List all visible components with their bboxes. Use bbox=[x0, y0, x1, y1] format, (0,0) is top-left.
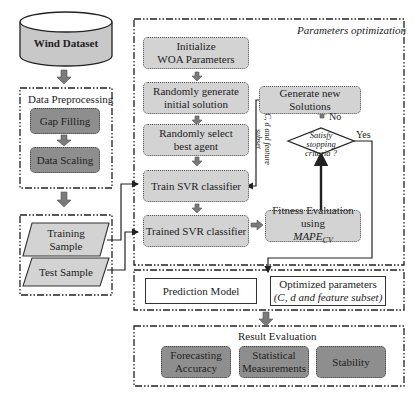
optimized-line1: Optimized parameters bbox=[279, 278, 376, 291]
step-line1: Randomly generate bbox=[153, 85, 239, 98]
fitness-line1: Fitness Evaluation using bbox=[266, 204, 360, 230]
item-line2: Measurements bbox=[242, 362, 306, 375]
step-line1: Randomly select bbox=[159, 127, 233, 140]
fitness-evaluation-step: Fitness Evaluation using MAPECV bbox=[265, 210, 361, 242]
optimized-parameters-box: Optimized parameters (C, d and feature s… bbox=[270, 276, 386, 306]
metric-subscript: CV bbox=[323, 237, 333, 246]
preprocessing-group-label: Data Preprocessing bbox=[28, 93, 113, 105]
item-line1: Forecasting bbox=[170, 349, 221, 362]
initialize-woa-step: Initialize WOA Parameters bbox=[143, 37, 249, 69]
training-sample-parallelogram: Training Sample bbox=[22, 222, 110, 257]
training-sample-line2: Sample bbox=[50, 240, 83, 253]
block-arrow-dataset bbox=[57, 70, 71, 84]
train-svr-step: Train SVR classifier bbox=[143, 170, 249, 202]
statistical-measurements-box: Statistical Measurements bbox=[239, 346, 309, 378]
feedback-line2: subset bbox=[254, 109, 263, 169]
metric-name: MAPE bbox=[293, 230, 322, 242]
step-line2: best agent bbox=[174, 140, 218, 153]
feedback-line1: C, d and feature bbox=[263, 109, 272, 169]
block-arrow-gap-scaling bbox=[57, 135, 71, 146]
yes-label: Yes bbox=[356, 129, 371, 140]
data-scaling-step: Data Scaling bbox=[30, 147, 100, 173]
trained-svr-step: Trained SVR classifier bbox=[143, 215, 249, 247]
optimized-line2: (C, d and feature subset) bbox=[274, 291, 383, 304]
block-arrow-trained-fitness bbox=[251, 220, 263, 230]
block-arrow-output-eval bbox=[259, 312, 273, 326]
item-line2: Accuracy bbox=[175, 362, 217, 375]
fitness-metric: MAPECV bbox=[293, 230, 333, 247]
decision-label: Satisfy stopping criteria ? bbox=[295, 131, 347, 158]
forecasting-accuracy-box: Forecasting Accuracy bbox=[161, 346, 231, 378]
generate-initial-solution-step: Randomly generate initial solution bbox=[143, 82, 249, 114]
evaluation-group-label: Result Evaluation bbox=[238, 330, 317, 342]
block-arrow-preproc-samples bbox=[57, 192, 71, 207]
test-sample-label: Test Sample bbox=[22, 257, 110, 287]
gap-filling-step: Gap Filling bbox=[30, 108, 100, 134]
decision-line2: criteria ? bbox=[295, 149, 347, 158]
item-line1: Statistical bbox=[252, 349, 295, 362]
feedback-label: C, d and feature subset bbox=[233, 130, 293, 152]
wind-dataset-cylinder: Wind Dataset bbox=[18, 10, 114, 68]
no-label: No bbox=[329, 111, 341, 122]
step-line2: initial solution bbox=[164, 98, 228, 111]
generate-new-solutions-step: Generate new Solutions bbox=[259, 86, 361, 114]
step-line1: Initialize bbox=[176, 40, 215, 53]
step-line2: WOA Parameters bbox=[157, 53, 234, 66]
dataset-label: Wind Dataset bbox=[18, 37, 114, 49]
training-sample-line1: Training bbox=[47, 227, 85, 240]
prediction-model-box: Prediction Model bbox=[145, 278, 257, 304]
decision-line1: Satisfy stopping bbox=[295, 131, 347, 149]
optimization-group-label: Parameters optimization bbox=[297, 24, 406, 36]
stability-box: Stability bbox=[316, 346, 386, 378]
test-sample-parallelogram: Test Sample bbox=[22, 257, 110, 287]
